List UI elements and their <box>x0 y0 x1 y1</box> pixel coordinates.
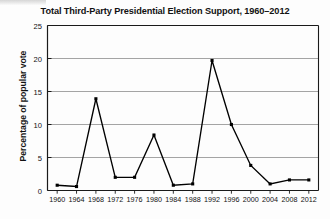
data-series-line <box>57 60 309 186</box>
chart-figure: Total Third-Party Presidential Election … <box>0 0 330 219</box>
axis-lines <box>48 26 319 191</box>
y-tick-label: 5 <box>24 153 42 162</box>
data-point-markers <box>56 59 311 188</box>
plot-area <box>0 0 330 219</box>
y-tick-label: 20 <box>24 54 42 63</box>
x-tick-label: 2012 <box>296 195 322 204</box>
y-tick-label: 10 <box>24 120 42 129</box>
gridlines <box>48 59 319 158</box>
y-tick-label: 0 <box>24 186 42 195</box>
y-tick-label: 25 <box>24 21 42 30</box>
y-tick-label: 15 <box>24 87 42 96</box>
